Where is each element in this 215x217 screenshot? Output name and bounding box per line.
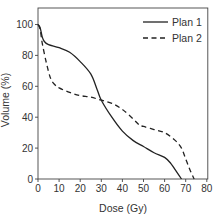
x-axis-label: Dose (Gy) <box>99 202 147 214</box>
x-tick-label: 20 <box>75 183 87 194</box>
y-tick-label: 40 <box>22 112 34 123</box>
legend: Plan 1Plan 2 <box>143 16 202 44</box>
x-axis: 01020304050607080 <box>35 179 213 194</box>
x-tick-label: 40 <box>117 183 129 194</box>
legend-label-1: Plan 1 <box>172 16 202 28</box>
legend-label-2: Plan 2 <box>172 32 202 44</box>
dose-volume-chart: 020406080100 01020304050607080 Plan 1Pla… <box>0 0 215 217</box>
x-tick-label: 70 <box>180 183 192 194</box>
y-axis: 020406080100 <box>16 19 38 185</box>
x-tick-label: 0 <box>35 183 41 194</box>
x-tick-label: 50 <box>138 183 150 194</box>
y-tick-label: 20 <box>22 143 34 154</box>
series-group <box>38 25 194 180</box>
y-tick-label: 60 <box>22 81 34 92</box>
y-tick-label: 0 <box>27 174 33 185</box>
x-tick-label: 60 <box>159 183 171 194</box>
y-axis-label: Volume (%) <box>0 73 11 127</box>
x-tick-label: 30 <box>96 183 108 194</box>
series-line-plan-2 <box>38 25 194 180</box>
series-line-plan-1 <box>38 25 181 180</box>
x-tick-label: 80 <box>201 183 213 194</box>
y-tick-label: 80 <box>22 50 34 61</box>
x-tick-label: 10 <box>54 183 66 194</box>
y-tick-label: 100 <box>16 19 33 30</box>
